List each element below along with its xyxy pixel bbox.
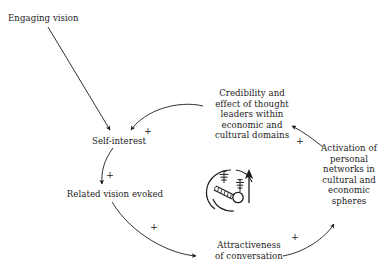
node-credibility-of-thought-leaders: Credibility and effect of thought leader… xyxy=(202,88,302,141)
node-related-vision-evoked: Related vision evoked xyxy=(56,189,174,200)
diagram-canvas xyxy=(0,0,392,280)
polarity-self-interest-to-related-vision: + xyxy=(106,170,114,180)
polarity-attractiveness-to-activation: + xyxy=(291,232,299,242)
link-credibility-to-self-interest xyxy=(131,104,203,130)
node-self-interest: Self-interest xyxy=(76,136,162,147)
node-attractiveness-of-conversation: Attractiveness of conversation xyxy=(203,240,295,261)
polarity-activation-to-credibility: + xyxy=(296,136,304,146)
node-activation-of-personal-networks: Activation of personal networks in cultu… xyxy=(312,143,386,207)
reinforcing-loop-landscape-icon xyxy=(206,169,253,211)
causal-loop-diagram: Engaging vision Self-interest Related vi… xyxy=(0,0,392,280)
polarity-credibility-to-self-interest: + xyxy=(144,126,152,136)
node-engaging-vision: Engaging vision xyxy=(8,13,98,24)
polarity-related-vision-to-attractiveness: + xyxy=(150,222,158,232)
link-engaging-vision-to-self-interest xyxy=(48,27,110,130)
